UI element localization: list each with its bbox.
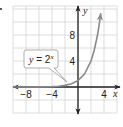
y-tick-label: 4 xyxy=(69,56,75,67)
x-tick-label: −4 xyxy=(46,89,58,100)
x-tick-label: −8 xyxy=(20,89,32,100)
function-callout: y = 2x xyxy=(24,50,67,82)
x-tick-label: 4 xyxy=(101,89,107,100)
y-axis-label: y xyxy=(82,5,88,16)
function-graph: y = 2x −8−4484 x y xyxy=(0,0,123,127)
y-tick-label: 8 xyxy=(69,30,75,41)
x-axis-label: x xyxy=(112,88,118,99)
